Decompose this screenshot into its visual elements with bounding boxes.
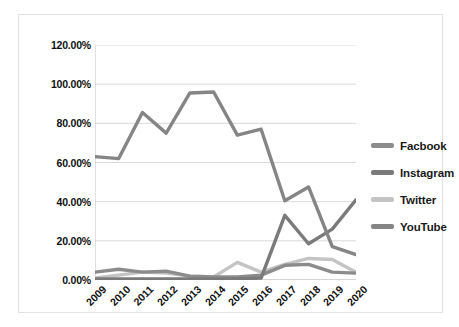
x-axis-tick-label: 2020 xyxy=(361,266,386,291)
legend-item-facbook[interactable]: Facbook xyxy=(371,135,459,156)
legend-label: Twitter xyxy=(400,194,436,206)
y-axis-tick-label: 120.00% xyxy=(51,39,91,51)
x-axis: 2009201020112012201320142015201620172018… xyxy=(95,281,356,327)
chart-plot-svg xyxy=(95,45,356,280)
legend-label: Instagram xyxy=(400,167,454,179)
legend-swatch-icon xyxy=(371,170,394,175)
legend-swatch-icon xyxy=(371,197,394,202)
y-axis-tick-label: 100.00% xyxy=(51,78,91,90)
legend-label: Facbook xyxy=(400,140,447,152)
legend-item-instagram[interactable]: Instagram xyxy=(371,162,459,183)
y-axis-tick-label: 0.00% xyxy=(62,274,91,286)
chart-legend: FacbookInstagramTwitterYouTube xyxy=(371,135,459,243)
plot-area xyxy=(95,45,356,280)
legend-swatch-icon xyxy=(371,143,394,148)
chart-frame: 0.00%20.00%40.00%60.00%80.00%100.00%120.… xyxy=(18,14,443,313)
series-line-youtube xyxy=(95,92,356,255)
legend-label: YouTube xyxy=(400,221,447,233)
y-axis-tick-label: 80.00% xyxy=(57,117,91,129)
y-axis-tick-label: 60.00% xyxy=(57,157,91,169)
y-axis: 0.00%20.00%40.00%60.00%80.00%100.00%120.… xyxy=(37,45,91,280)
y-axis-tick-label: 20.00% xyxy=(57,235,91,247)
legend-swatch-icon xyxy=(371,224,394,229)
y-axis-tick-label: 40.00% xyxy=(57,196,91,208)
legend-item-youtube[interactable]: YouTube xyxy=(371,216,459,237)
legend-item-twitter[interactable]: Twitter xyxy=(371,189,459,210)
